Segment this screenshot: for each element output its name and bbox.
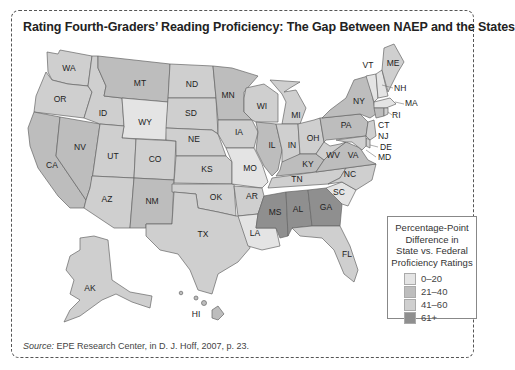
legend-item: 0–20 xyxy=(404,272,476,285)
label-de: DE xyxy=(380,142,392,152)
label-wa: WA xyxy=(62,63,76,73)
label-nm: NM xyxy=(145,196,158,206)
legend-swatch xyxy=(404,312,416,324)
state-ct xyxy=(374,108,384,118)
legend-label: 21–40 xyxy=(421,286,447,297)
label-wv: WV xyxy=(326,150,340,160)
label-co: CO xyxy=(149,154,162,164)
label-wi: WI xyxy=(257,101,267,111)
label-me: ME xyxy=(387,58,400,68)
legend-title-line: Proficiency Ratings xyxy=(388,257,476,269)
label-nc: NC xyxy=(344,169,356,179)
label-wy: WY xyxy=(138,117,152,127)
label-ga: GA xyxy=(320,202,333,212)
state-hi-kauai xyxy=(179,291,183,295)
label-sd: SD xyxy=(185,108,197,118)
legend-swatch xyxy=(404,286,416,298)
label-or: OR xyxy=(54,94,67,104)
label-mn: MN xyxy=(221,90,234,100)
label-ok: OK xyxy=(210,192,223,202)
label-mt: MT xyxy=(134,78,146,88)
label-ca: CA xyxy=(46,160,58,170)
label-in: IN xyxy=(288,140,297,150)
legend-item: 21–40 xyxy=(404,285,476,298)
label-nh: NH xyxy=(394,83,406,93)
label-ms: MS xyxy=(269,207,282,217)
label-ak: AK xyxy=(84,283,96,293)
label-az: AZ xyxy=(102,194,113,204)
label-hi: HI xyxy=(192,309,201,319)
state-hi-big xyxy=(212,306,224,320)
label-ri: RI xyxy=(392,110,401,120)
source-note: Source: EPE Research Center, in D. J. Ho… xyxy=(23,341,249,351)
state-hi-oahu xyxy=(194,296,198,300)
label-va: VA xyxy=(348,150,359,160)
legend-label: 61+ xyxy=(421,312,437,323)
label-ar: AR xyxy=(246,191,258,201)
label-vt: VT xyxy=(363,60,374,70)
legend-item: 41–60 xyxy=(404,298,476,311)
legend-label: 41–60 xyxy=(421,299,447,310)
legend-swatch xyxy=(404,299,416,311)
label-al: AL xyxy=(293,204,304,214)
legend-title: Percentage-Point Difference in State vs.… xyxy=(388,222,476,268)
label-il: IL xyxy=(268,140,275,150)
label-fl: FL xyxy=(342,249,352,259)
label-ne: NE xyxy=(188,134,200,144)
label-ia: IA xyxy=(235,127,243,137)
label-pa: PA xyxy=(341,120,352,130)
label-ma: MA xyxy=(405,98,418,108)
map-legend: Percentage-Point Difference in State vs.… xyxy=(387,216,477,319)
label-la: LA xyxy=(250,228,261,238)
state-ma xyxy=(374,98,396,108)
legend-item: 61+ xyxy=(404,311,476,324)
label-ut: UT xyxy=(107,151,118,161)
label-oh: OH xyxy=(307,133,320,143)
label-ct: CT xyxy=(378,120,389,130)
source-text: EPE Research Center, in D. J. Hoff, 2007… xyxy=(54,341,249,351)
legend-title-line: State vs. Federal xyxy=(388,245,476,257)
source-label: Source: xyxy=(23,341,54,351)
state-hi-maui xyxy=(202,301,207,306)
label-tx: TX xyxy=(198,229,209,239)
label-ny: NY xyxy=(353,96,365,106)
state-ak xyxy=(64,236,152,322)
label-tn: TN xyxy=(291,174,302,184)
label-sc: SC xyxy=(333,187,345,197)
state-de xyxy=(366,138,370,148)
label-md: MD xyxy=(378,152,391,162)
label-ky: KY xyxy=(302,159,314,169)
legend-label: 0–20 xyxy=(421,273,442,284)
label-nv: NV xyxy=(74,142,86,152)
legend-swatch xyxy=(404,273,416,285)
label-nj: NJ xyxy=(378,131,388,141)
legend-title-line: Difference in xyxy=(388,234,476,246)
label-mi: MI xyxy=(291,110,300,120)
label-id: ID xyxy=(99,108,108,118)
legend-title-line: Percentage-Point xyxy=(388,222,476,234)
label-ks: KS xyxy=(201,164,213,174)
label-nd: ND xyxy=(186,79,198,89)
label-mo: MO xyxy=(243,163,257,173)
state-ri xyxy=(384,108,388,116)
